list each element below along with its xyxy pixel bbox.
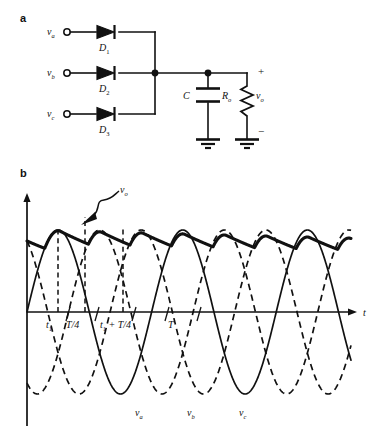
waveform-chart: t t1 T/4 t1 + T/4 T vo va vb vc	[0, 181, 381, 446]
label-capacitor: C	[183, 90, 190, 101]
annotation-label-vo: vo	[120, 184, 128, 197]
capacitor-icon	[196, 89, 220, 102]
label-d3: D3	[98, 124, 109, 137]
polarity-plus: +	[258, 65, 264, 77]
vo-callout-arrow	[81, 191, 119, 225]
label-vb: vb	[47, 67, 55, 80]
resistor-icon	[241, 86, 253, 116]
label-d2: D2	[98, 83, 109, 96]
circuit-diagram: va vb vc D1 D2 D3 C Ro vo + −	[0, 0, 381, 165]
tick-2	[95, 307, 99, 321]
figure-container: a b	[0, 0, 381, 446]
x-axis-arrow	[348, 308, 357, 315]
label-va: va	[47, 26, 55, 39]
x-axis-label: t	[363, 307, 366, 318]
label-d1: D1	[98, 42, 109, 55]
label-resistor: Ro	[221, 90, 232, 103]
y-axis-arrow	[23, 193, 30, 202]
series-label-vc: vc	[239, 407, 246, 420]
tick-label-t1: t1	[46, 319, 52, 332]
ground-icon-load	[235, 140, 259, 149]
x-axis-ticks	[66, 307, 201, 321]
diode-icon-d1	[97, 25, 115, 39]
series-label-va: va	[135, 407, 143, 420]
tick-3	[132, 307, 136, 321]
polarity-minus: −	[258, 125, 264, 137]
terminal-icon-va	[64, 29, 70, 35]
label-vc: vc	[47, 108, 54, 121]
label-vo-circuit: vo	[256, 90, 264, 103]
tick-5	[197, 307, 201, 321]
junction-dot-bus	[152, 70, 159, 77]
tick-label-T4: T/4	[66, 319, 79, 330]
junction-dot-cap	[205, 70, 212, 77]
tick-label-t1-plus-T4: t1 + T/4	[100, 319, 131, 332]
terminal-icon-vc	[64, 111, 70, 117]
ground-icon-capacitor	[196, 140, 220, 149]
series-label-vb: vb	[187, 407, 195, 420]
panel-label-b: b	[20, 167, 27, 179]
terminal-icon-vb	[64, 70, 70, 76]
diode-icon-d3	[97, 107, 115, 121]
diode-icon-d2	[97, 66, 115, 80]
